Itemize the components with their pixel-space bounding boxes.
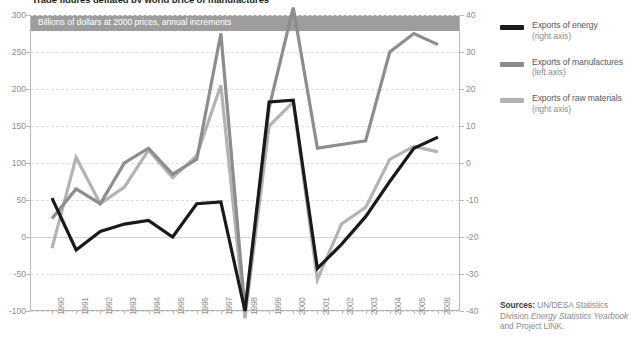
tick bbox=[460, 311, 464, 312]
right-axis-tick-label: -30 bbox=[466, 270, 492, 279]
sources-body-2: and Project LINK. bbox=[500, 321, 564, 331]
right-axis-tick-label: 0 bbox=[466, 159, 492, 168]
tick bbox=[460, 52, 464, 53]
legend-item-label: Exports of energy bbox=[532, 20, 631, 31]
legend-item-axis: (right axis) bbox=[532, 104, 631, 115]
sources-note: Sources: UN/DESA Statistics Division Ene… bbox=[500, 300, 631, 332]
tick bbox=[460, 15, 464, 16]
figure-top-title: Trade figures deflated by world price of… bbox=[32, 0, 269, 3]
sources-body-italic: Energy Statistics Yearbook bbox=[531, 311, 628, 321]
series-line bbox=[52, 100, 438, 311]
right-axis-tick-label: 20 bbox=[466, 85, 492, 94]
left-axis-tick-label: -100 bbox=[2, 307, 26, 316]
left-axis-tick-label: 0 bbox=[2, 233, 26, 242]
legend-swatch-icon bbox=[500, 98, 524, 103]
plot-area: 300250200150100500-50-100 403020100-10-2… bbox=[30, 15, 460, 311]
tick bbox=[460, 163, 464, 164]
right-axis-tick-label: -10 bbox=[466, 196, 492, 205]
legend-swatch-icon bbox=[500, 62, 524, 67]
chart-figure: Trade figures deflated by world price of… bbox=[0, 0, 631, 343]
left-axis-tick-label: 250 bbox=[2, 48, 26, 57]
left-axis-tick-label: 100 bbox=[2, 159, 26, 168]
left-axis-tick-label: 150 bbox=[2, 122, 26, 131]
legend-item[interactable]: Exports of raw materials(right axis) bbox=[500, 93, 631, 114]
right-axis-tick-label: 30 bbox=[466, 48, 492, 57]
legend-swatch-icon bbox=[500, 25, 524, 30]
left-axis-tick-label: -50 bbox=[2, 270, 26, 279]
tick bbox=[460, 200, 464, 201]
right-axis-tick-label: 40 bbox=[466, 11, 492, 20]
series-lines bbox=[30, 15, 460, 311]
legend-item[interactable]: Exports of energy(right axis) bbox=[500, 20, 631, 41]
right-axis-tick-label: -40 bbox=[466, 307, 492, 316]
legend-item-axis: (left axis) bbox=[532, 67, 631, 78]
sources-label: Sources: bbox=[500, 300, 535, 310]
left-axis-tick-label: 200 bbox=[2, 85, 26, 94]
tick bbox=[26, 311, 30, 312]
tick bbox=[460, 89, 464, 90]
right-axis-tick-label: -20 bbox=[466, 233, 492, 242]
series-line bbox=[52, 7, 438, 310]
tick bbox=[460, 126, 464, 127]
right-axis-tick-label: 10 bbox=[466, 122, 492, 131]
series-line bbox=[52, 85, 438, 318]
tick bbox=[460, 237, 464, 238]
legend-item-label: Exports of raw materials bbox=[532, 93, 631, 104]
legend-item-label: Exports of manufactures bbox=[532, 57, 631, 68]
legend-item-axis: (right axis) bbox=[532, 31, 631, 42]
left-axis-tick-label: 50 bbox=[2, 196, 26, 205]
tick bbox=[460, 274, 464, 275]
left-axis-tick-label: 300 bbox=[2, 11, 26, 20]
legend: Exports of energy(right axis)Exports of … bbox=[500, 20, 631, 130]
legend-item[interactable]: Exports of manufactures(left axis) bbox=[500, 57, 631, 78]
